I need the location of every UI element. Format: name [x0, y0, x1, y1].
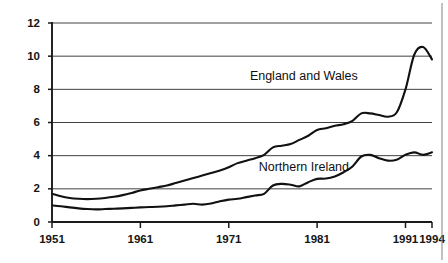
- y-tick-label: 6: [34, 116, 40, 128]
- chart-background: [0, 0, 448, 263]
- series-annotation-northern-ireland: Northern Ireland: [259, 160, 349, 174]
- x-tick-label: 1961: [128, 233, 154, 245]
- x-tick-label: 1951: [39, 233, 65, 245]
- y-tick-label: 0: [34, 216, 40, 228]
- chart-container: 024681012 195119611971198119911994 Engla…: [0, 0, 448, 263]
- y-tick-label: 2: [34, 182, 40, 194]
- y-tick-label: 8: [34, 83, 41, 95]
- x-tick-label: 1971: [216, 233, 242, 245]
- y-tick-label: 10: [27, 50, 40, 62]
- x-tick-label: 1991: [393, 233, 419, 245]
- series-annotation-england-and-wales: England and Wales: [250, 69, 358, 83]
- x-tick-label: 1981: [304, 233, 330, 245]
- y-tick-label: 12: [27, 17, 40, 29]
- y-tick-label: 4: [34, 149, 41, 161]
- line-chart: 024681012 195119611971198119911994 Engla…: [0, 0, 448, 263]
